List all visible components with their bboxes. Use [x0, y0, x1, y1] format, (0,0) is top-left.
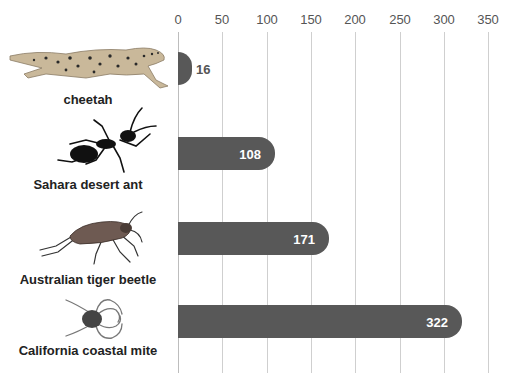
bar: 171 — [178, 222, 329, 255]
bar-value-label: 16 — [196, 61, 210, 76]
mite-icon — [64, 296, 126, 340]
tick-label: 50 — [215, 12, 229, 27]
tick-label: 300 — [433, 12, 455, 27]
tick-label: 350 — [477, 12, 499, 27]
category-label: California coastal mite — [0, 343, 176, 358]
category-label: Sahara desert ant — [0, 177, 176, 192]
category-label: Australian tiger beetle — [0, 272, 176, 287]
tick-label: 0 — [174, 12, 181, 27]
bar: 322 — [178, 305, 462, 338]
tick-label: 250 — [389, 12, 411, 27]
bar-value-label: 108 — [239, 146, 261, 161]
bar-value-label: 322 — [426, 314, 448, 329]
bar: 16 — [178, 52, 192, 85]
tick-label: 100 — [256, 12, 278, 27]
tick-label: 150 — [300, 12, 322, 27]
beetle-icon — [36, 206, 148, 268]
gridline — [488, 32, 489, 373]
cheetah-icon — [6, 44, 174, 90]
bar: 108 — [178, 137, 275, 170]
bar-value-label: 171 — [293, 231, 315, 246]
tick-label: 200 — [344, 12, 366, 27]
ant-icon — [50, 104, 160, 176]
